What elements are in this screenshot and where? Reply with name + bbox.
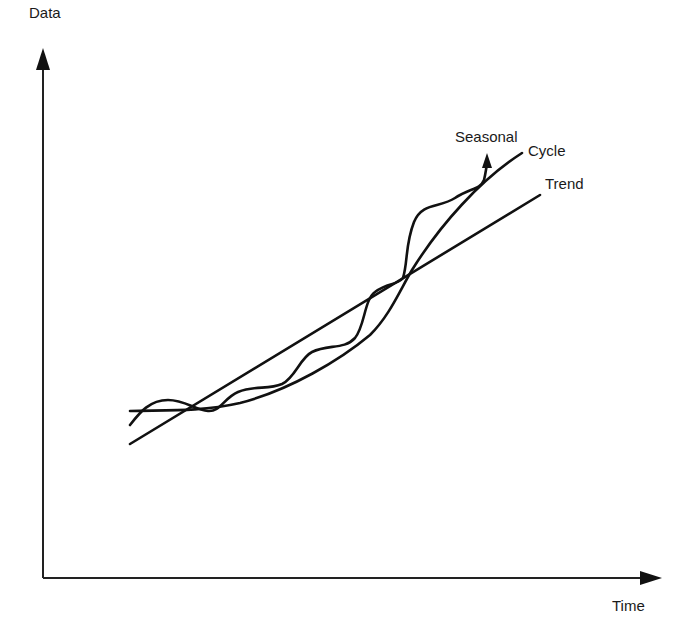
- y-axis-label: Data: [29, 4, 61, 21]
- cycle-label: Cycle: [528, 142, 566, 159]
- x-axis-label: Time: [612, 597, 645, 614]
- y-axis-arrow-icon: [36, 48, 50, 70]
- time-series-components-diagram: Data Time Seasonal Cycle Trend: [0, 0, 694, 625]
- seasonal-arrow-icon: [482, 153, 492, 168]
- y-axis: Data: [29, 4, 61, 578]
- seasonal-label: Seasonal: [455, 128, 518, 145]
- trend-label: Trend: [545, 175, 584, 192]
- seasonal-curve: [130, 165, 487, 425]
- cycle-curve: [130, 153, 522, 411]
- x-axis-arrow-icon: [640, 571, 662, 585]
- x-axis: Time: [43, 571, 662, 614]
